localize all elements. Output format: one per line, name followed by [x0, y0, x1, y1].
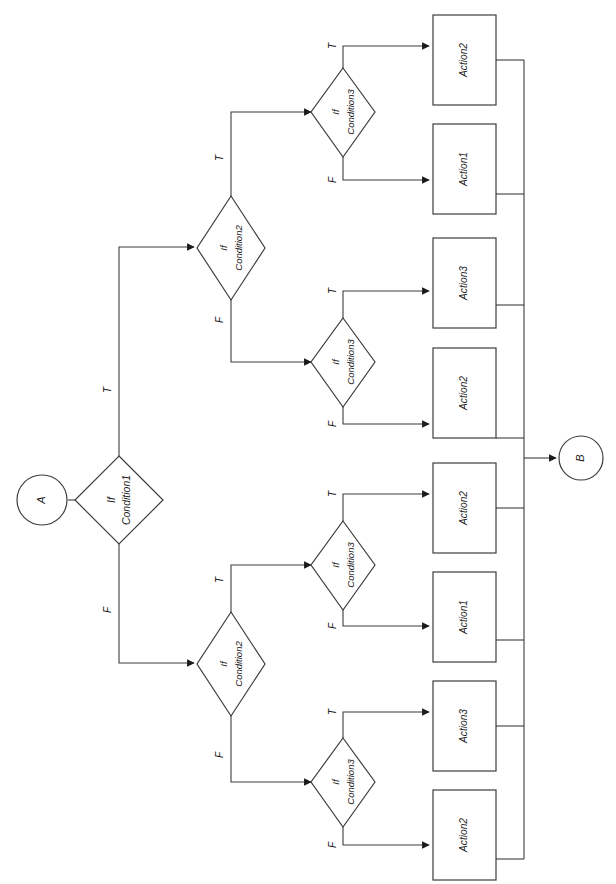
- branch-label-c2top-false: F: [214, 316, 225, 323]
- edge-c3d-false-to-action8: [343, 827, 429, 845]
- decision-condition1[interactable]: If Condition1: [75, 456, 163, 544]
- branch-label-c3d-false: F: [327, 841, 338, 848]
- condition3-a-label-line2: Condition3: [345, 89, 356, 135]
- end-label: B: [574, 454, 586, 461]
- condition1-label-line2: Condition1: [120, 475, 132, 525]
- edge-c2bot-false-to-c3d: [231, 716, 311, 782]
- condition2-false-diamond[interactable]: [197, 612, 265, 716]
- action-box-4[interactable]: Action2: [433, 348, 496, 438]
- edge-c3d-true-to-action7: [343, 712, 429, 738]
- edge-c1-false-to-c2bottom: [119, 544, 194, 663]
- branch-label-c3c-false: F: [327, 622, 338, 629]
- branch-label-c3b-false: F: [327, 420, 338, 427]
- edge-c3c-false-to-action6: [343, 610, 429, 626]
- action-box-2-label: Action1: [458, 152, 469, 187]
- action-box-2[interactable]: Action1: [433, 124, 496, 214]
- branch-labels-layer: T F T F T F T F T F T F T F: [102, 42, 338, 848]
- decision-condition2-false[interactable]: If Condition2: [197, 612, 265, 716]
- branch-label-c3c-true: T: [327, 490, 338, 497]
- action-box-8-label: Action2: [458, 818, 469, 853]
- action-box-7-label: Action3: [458, 709, 469, 744]
- action-box-5-label: Action2: [458, 491, 469, 526]
- decision-condition3-b[interactable]: If Condition3: [311, 318, 375, 407]
- edge-c1-true-to-c2top: [119, 247, 194, 456]
- action-box-3-label: Action3: [458, 266, 469, 301]
- flowchart-svg: T F T F T F T F T F T F T F A B If Condi…: [0, 0, 616, 884]
- branch-label-c1-true: T: [102, 386, 113, 393]
- branch-label-c1-false: F: [102, 606, 113, 613]
- decision-condition3-a[interactable]: If Condition3: [311, 68, 375, 157]
- action-box-1[interactable]: Action2: [433, 15, 496, 105]
- action-box-7[interactable]: Action3: [433, 681, 496, 771]
- start-node[interactable]: A: [17, 475, 67, 525]
- edge-c3b-false-to-action4: [343, 407, 429, 424]
- edge-c3a-false-to-action2: [343, 157, 429, 180]
- branch-label-c2bot-true: T: [214, 576, 225, 583]
- condition2-false-label-line2: Condition2: [233, 641, 244, 687]
- action-box-3[interactable]: Action3: [433, 238, 496, 328]
- start-label: A: [35, 496, 47, 504]
- branch-label-c3a-false: F: [327, 176, 338, 183]
- branch-label-c2top-true: T: [214, 154, 225, 161]
- branch-label-c3d-true: T: [327, 708, 338, 715]
- action-box-8[interactable]: Action2: [433, 790, 496, 880]
- condition3-d-diamond[interactable]: [311, 738, 375, 827]
- edge-c3c-true-to-action5: [343, 494, 429, 521]
- decision-condition3-d[interactable]: If Condition3: [311, 738, 375, 827]
- edge-c3b-true-to-action3: [343, 291, 429, 318]
- decision-condition2-true[interactable]: If Condition2: [197, 196, 265, 300]
- condition3-b-diamond[interactable]: [311, 318, 375, 407]
- flowchart-canvas: T F T F T F T F T F T F T F A B If Condi…: [0, 0, 616, 884]
- condition3-a-diamond[interactable]: [311, 68, 375, 157]
- action-box-5[interactable]: Action2: [433, 463, 496, 553]
- branch-label-c3a-true: T: [327, 42, 338, 49]
- edge-c2top-false-to-c3b: [231, 300, 311, 362]
- action-box-4-label: Action2: [458, 376, 469, 411]
- condition2-true-label-line2: Condition2: [233, 225, 244, 271]
- condition3-d-label-line2: Condition3: [345, 759, 356, 805]
- decision-condition3-c[interactable]: If Condition3: [311, 521, 375, 610]
- condition3-c-label-line2: Condition3: [345, 542, 356, 588]
- condition2-true-diamond[interactable]: [197, 196, 265, 300]
- branch-label-c3b-true: T: [327, 287, 338, 294]
- branch-label-c2bot-false: F: [214, 751, 225, 758]
- condition3-c-diamond[interactable]: [311, 521, 375, 610]
- condition3-b-label-line2: Condition3: [345, 339, 356, 385]
- action-box-6[interactable]: Action1: [433, 572, 496, 662]
- edge-c2bot-true-to-c3c: [231, 565, 311, 612]
- edge-c2top-true-to-c3a: [231, 112, 311, 196]
- edge-c3a-true-to-action1: [343, 46, 429, 68]
- action-box-1-label: Action2: [458, 43, 469, 78]
- action-box-6-label: Action1: [458, 600, 469, 635]
- end-node[interactable]: B: [559, 436, 603, 480]
